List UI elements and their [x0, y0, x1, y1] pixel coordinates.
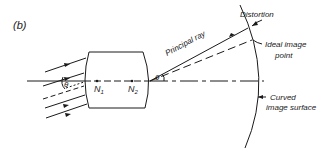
label-ideal-image: Ideal image — [265, 40, 307, 49]
label-curved: Curved — [270, 93, 296, 102]
label-n2: N2 — [128, 84, 139, 95]
label-theta-out: θ — [155, 73, 160, 82]
diagram-svg: (b) Distortion Ideal image point Curved … — [0, 0, 335, 154]
panel-label: (b) — [13, 19, 27, 31]
label-n1: N1 — [94, 84, 104, 95]
arrowhead-4 — [63, 104, 69, 108]
label-image-surface: image surface — [266, 103, 317, 112]
arrowhead-5 — [65, 113, 71, 117]
node-n1-dot — [96, 80, 99, 83]
ideal-ray — [150, 40, 252, 81]
label-ideal-point: point — [274, 51, 293, 60]
lens — [85, 52, 149, 108]
label-distortion: Distortion — [240, 10, 274, 19]
optics-diagram: (b) Distortion Ideal image point Curved … — [0, 0, 335, 154]
node-n2-dot — [131, 80, 134, 83]
curved-image-surface — [240, 5, 259, 148]
label-theta-in: θ — [64, 80, 69, 89]
